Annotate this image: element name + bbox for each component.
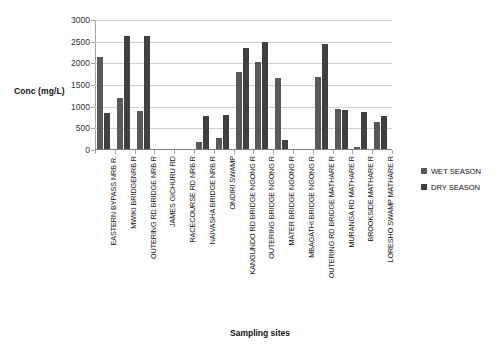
legend-item[interactable]: WET SEASON (421, 166, 499, 176)
x-axis-tick-label: LORESHO SWAMP MATHARE R (386, 156, 396, 306)
x-axis-tick-label: NAIVASHA BRIDGE NRB R (208, 156, 218, 306)
legend-swatch-icon (421, 168, 427, 174)
legend-item[interactable]: DRY SEASON (421, 182, 499, 192)
x-axis-tick-label: BROOKSIDE MATHARE R (366, 156, 376, 306)
x-axis-tick-label: MWIKI BRIDGENRB R (129, 156, 139, 306)
x-axis-tick-label: MURANGA RD MATHARE R (347, 156, 357, 306)
x-axis-tick-label: OUTERING RD BRIDGE MATHARE R (327, 156, 337, 306)
x-axis-tick-label: KANGUNDO RD BRIDGE NGONG R (248, 156, 258, 306)
x-axis-tick-label: ONDIRI SWAMP (228, 156, 238, 306)
x-axis-tick-label: OUTERING RD BRIDGE NRB R (149, 156, 159, 306)
chart-legend: WET SEASONDRY SEASON (421, 166, 499, 198)
x-axis-tick-label: RACECOURSE RD NRB R (188, 156, 198, 306)
bar-chart-figure: Conc (mg/L) 050010001500200025003000 EAS… (0, 0, 503, 348)
legend-swatch-icon (421, 184, 427, 190)
legend-label: DRY SEASON (431, 183, 480, 192)
x-axis-title: Sampling sites (150, 328, 370, 338)
x-axis-tick-label: OUTERING BRIDGE NGONG R (267, 156, 277, 306)
legend-label: WET SEASON (431, 167, 481, 176)
x-axis-tick-label: JAMES GICHURU RD (168, 156, 178, 306)
x-axis-tick-label: MBAGATHI BRIDGE NGONG R (307, 156, 317, 306)
x-axis-tick-label: EASTERN BYPASS NRB R. (109, 156, 119, 306)
x-axis-tick-label: MATER BRIDGE NGONG R (287, 156, 297, 306)
